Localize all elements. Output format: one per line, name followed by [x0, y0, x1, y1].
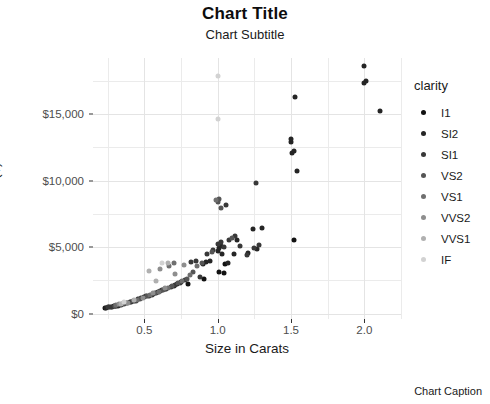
- legend-title: clarity: [414, 78, 488, 93]
- data-point: [171, 261, 176, 266]
- x-tick-label: 0.5: [136, 324, 152, 336]
- x-tick-mark: [144, 319, 145, 323]
- x-axis-label: Size in Carats: [93, 341, 401, 356]
- data-point: [291, 237, 296, 242]
- data-point: [202, 276, 207, 281]
- legend: clarity I1SI2SI1VS2VS1VVS2VVS1IF: [412, 78, 488, 270]
- legend-key: [412, 236, 434, 241]
- data-point: [159, 261, 164, 266]
- data-point: [215, 73, 220, 78]
- data-point: [225, 261, 230, 266]
- legend-label: VS2: [441, 170, 463, 182]
- data-point: [181, 263, 186, 268]
- data-point: [146, 269, 151, 274]
- data-point: [208, 258, 213, 263]
- legend-label: VVS1: [441, 233, 470, 245]
- legend-item-vs1[interactable]: VS1: [412, 186, 488, 207]
- y-tick-mark: [89, 180, 93, 181]
- data-point: [221, 245, 226, 250]
- data-point: [218, 205, 223, 210]
- data-point: [293, 95, 298, 100]
- data-point: [289, 136, 294, 141]
- grid-line: [218, 58, 219, 319]
- grid-line: [93, 280, 401, 281]
- legend-items: I1SI2SI1VS2VS1VVS2VVS1IF: [412, 102, 488, 270]
- grid-line: [93, 181, 401, 182]
- data-point: [250, 227, 255, 232]
- y-tick-label: $10,000: [42, 175, 84, 187]
- data-point: [199, 261, 204, 266]
- legend-dot-icon: [421, 194, 426, 199]
- grid-line: [93, 81, 401, 82]
- data-point: [378, 109, 383, 114]
- x-tick-mark: [218, 319, 219, 323]
- data-point: [154, 278, 159, 283]
- y-tick-mark: [89, 313, 93, 314]
- legend-key: [412, 173, 434, 178]
- data-point: [256, 243, 261, 248]
- legend-label: VS1: [441, 191, 463, 203]
- data-point: [195, 263, 200, 268]
- y-tick-label: $15,000: [42, 108, 84, 120]
- legend-item-if[interactable]: IF: [412, 249, 488, 270]
- data-point: [253, 181, 258, 186]
- grid-line: [144, 58, 145, 319]
- data-point: [165, 261, 170, 266]
- data-point: [186, 281, 191, 286]
- data-point: [173, 272, 178, 277]
- legend-label: I1: [441, 107, 451, 119]
- data-point: [215, 117, 220, 122]
- legend-dot-icon: [421, 152, 426, 157]
- data-point: [121, 300, 126, 305]
- data-point: [220, 252, 225, 257]
- data-point: [180, 279, 185, 284]
- legend-dot-icon: [421, 110, 426, 115]
- legend-dot-icon: [421, 257, 426, 262]
- data-point: [221, 271, 226, 276]
- legend-dot-icon: [421, 131, 426, 136]
- legend-key: [412, 110, 434, 115]
- data-point: [214, 198, 219, 203]
- legend-dot-icon: [421, 215, 426, 220]
- data-point: [245, 253, 250, 258]
- legend-item-si1[interactable]: SI1: [412, 144, 488, 165]
- legend-item-vvs2[interactable]: VVS2: [412, 207, 488, 228]
- y-tick-label: $5,000: [49, 241, 84, 253]
- x-tick-mark: [364, 319, 365, 323]
- grid-line: [93, 114, 401, 115]
- grid-line: [364, 58, 365, 319]
- data-point: [157, 289, 162, 294]
- data-point: [162, 285, 167, 290]
- data-point: [170, 284, 175, 289]
- data-point: [158, 267, 163, 272]
- legend-dot-icon: [421, 236, 426, 241]
- legend-item-vs2[interactable]: VS2: [412, 165, 488, 186]
- grid-line: [401, 58, 402, 319]
- legend-item-si2[interactable]: SI2: [412, 123, 488, 144]
- legend-key: [412, 194, 434, 199]
- data-point: [224, 203, 229, 208]
- data-point: [230, 235, 235, 240]
- y-axis-label: Price ($): [0, 162, 2, 213]
- scatter-chart: Chart Title Chart Subtitle Price ($) Siz…: [0, 0, 490, 404]
- chart-caption: Chart Caption: [414, 385, 482, 397]
- legend-key: [412, 257, 434, 262]
- data-point: [132, 298, 137, 303]
- data-point: [126, 300, 131, 305]
- data-point: [140, 295, 145, 300]
- y-tick-mark: [89, 247, 93, 248]
- data-point: [209, 250, 214, 255]
- grid-line: [93, 147, 401, 148]
- legend-dot-icon: [421, 173, 426, 178]
- legend-label: SI1: [441, 149, 458, 161]
- data-point: [259, 225, 264, 230]
- legend-item-i1[interactable]: I1: [412, 102, 488, 123]
- grid-line: [93, 314, 401, 315]
- legend-label: VVS2: [441, 212, 470, 224]
- grid-line: [291, 58, 292, 319]
- data-point: [198, 274, 203, 279]
- legend-label: IF: [441, 254, 451, 266]
- data-point: [187, 273, 192, 278]
- legend-item-vvs1[interactable]: VVS1: [412, 228, 488, 249]
- data-point: [362, 63, 367, 68]
